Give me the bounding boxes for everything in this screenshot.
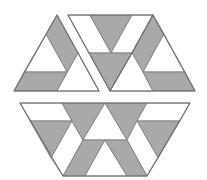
- hexagon-dissection-diagram: [0, 0, 207, 180]
- bottom-trapezoid-piece: [20, 103, 190, 176]
- puzzle-figure: Hexagon dissection puzzle: [0, 0, 207, 180]
